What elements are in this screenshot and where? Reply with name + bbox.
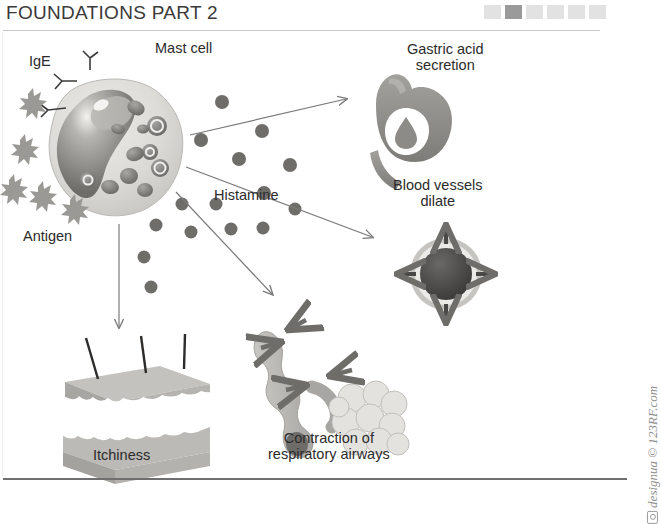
progress-dot-6[interactable] <box>589 5 606 19</box>
watermark: designua © 123RF.com <box>645 386 661 524</box>
stomach-illustration <box>370 74 452 190</box>
watermark-text: designua © 123RF.com <box>645 386 660 508</box>
progress-dot-1[interactable] <box>484 5 501 19</box>
label-histamine: Histamine <box>214 187 278 203</box>
label-itchiness: Itchiness <box>93 447 150 463</box>
footer-divider <box>3 478 627 480</box>
progress-indicator <box>484 5 606 19</box>
progress-dot-3[interactable] <box>526 5 543 19</box>
page-title: FOUNDATIONS PART 2 <box>6 2 218 24</box>
label-airways: Contraction of respiratory airways <box>268 430 390 462</box>
header-divider <box>3 30 600 31</box>
label-mast-cell: Mast cell <box>155 40 212 56</box>
camera-icon <box>647 511 658 524</box>
diagram-canvas: IgE Mast cell Antigen Histamine Gastric … <box>0 32 646 478</box>
mast-cell-illustration <box>49 79 183 216</box>
diagram-illustration <box>0 32 646 478</box>
label-antigen: Antigen <box>23 228 72 244</box>
label-gastric-acid: Gastric acid secretion <box>407 41 484 73</box>
progress-dot-5[interactable] <box>568 5 585 19</box>
progress-dot-4[interactable] <box>547 5 564 19</box>
blood-vessel-illustration <box>400 228 492 320</box>
label-blood-vessels: Blood vessels dilate <box>393 177 482 209</box>
arrow-to-airways <box>176 192 272 294</box>
label-ige: IgE <box>29 53 51 69</box>
progress-dot-2[interactable] <box>505 5 522 19</box>
